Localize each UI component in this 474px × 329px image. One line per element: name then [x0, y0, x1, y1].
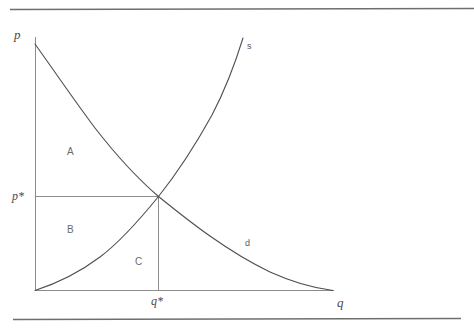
- region-label-b: B: [67, 225, 74, 235]
- supply-demand-chart: [0, 0, 474, 329]
- equilibrium-price-tick-label: p*: [12, 190, 24, 202]
- supply-curve-label: s: [247, 42, 252, 51]
- demand-curve: [35, 44, 333, 291]
- equilibrium-quantity-tick-label: q*: [151, 295, 163, 307]
- y-axis-label: p: [14, 28, 21, 41]
- top-rule: [10, 9, 474, 10]
- x-axis-label: q: [337, 296, 344, 309]
- region-label-c: C: [135, 257, 142, 267]
- region-label-a: A: [67, 147, 74, 157]
- supply-demand-figure: p q p* q* s d A B C: [0, 0, 474, 329]
- bottom-rule: [13, 319, 461, 320]
- demand-curve-label: d: [245, 239, 250, 248]
- supply-curve: [35, 38, 243, 291]
